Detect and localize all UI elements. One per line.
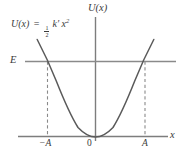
y-axis-label: U(x) [88,3,107,14]
tick-label-origin: 0 [87,139,92,149]
energy-level-label: E [10,55,16,66]
equation-exponent: 2 [66,17,69,24]
equation-one-half-fraction: 1 2 [44,25,49,38]
x-axis-label: x [170,130,175,141]
tick-label-positive-amplitude: A [142,139,148,149]
equation-spring-constant: k′ [52,18,59,29]
fraction-denominator: 2 [44,32,49,38]
potential-energy-figure: U(x) = 1 2 k′ x2 U(x) x E −A 0 A [0,0,181,159]
curve-equation-label: U(x) = 1 2 k′ x2 [11,19,69,38]
equation-equals-sign: = [34,18,40,29]
equation-function-name: U(x) [11,18,29,29]
tick-label-negative-amplitude: −A [39,139,51,149]
